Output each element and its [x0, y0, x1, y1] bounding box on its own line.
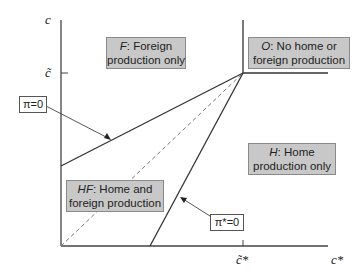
region-HF-line1: : Home and: [93, 183, 152, 195]
region-F-label: F: Foreign production only: [106, 37, 186, 69]
x-axis-label: c*: [331, 252, 343, 268]
region-F-line2: production only: [107, 54, 185, 66]
region-HF-line2: foreign production: [69, 197, 161, 209]
region-O-name: O: [261, 40, 270, 52]
region-H-line2: production only: [253, 160, 331, 172]
pi-zero-line: [61, 73, 243, 166]
region-H-name: H: [269, 146, 277, 158]
pi-zero-label: π=0: [19, 96, 47, 113]
region-O-label: O: No home or foreign production: [248, 37, 350, 69]
pi-label-pointer: [46, 106, 108, 138]
x-tick-label: c̃*: [236, 252, 248, 268]
region-HF-label: HF: Home and foreign production: [66, 180, 164, 212]
region-F-line1: : Foreign: [127, 40, 172, 52]
region-H-line1: : Home: [278, 146, 315, 158]
pi-label-arrowhead: [104, 133, 111, 140]
y-axis-label: c: [45, 12, 51, 28]
pi-star-label-arrowhead: [180, 197, 187, 203]
region-H-label: H: Home production only: [248, 143, 336, 175]
region-HF-name: HF: [78, 183, 93, 195]
region-O-line1: : No home or: [270, 40, 336, 52]
region-O-line2: foreign production: [253, 54, 345, 66]
pi-star-zero-label: π*=0: [210, 214, 244, 231]
y-tick-label: c̃: [45, 65, 51, 81]
region-F-name: F: [120, 40, 127, 52]
pi-star-label-pointer: [183, 199, 210, 216]
